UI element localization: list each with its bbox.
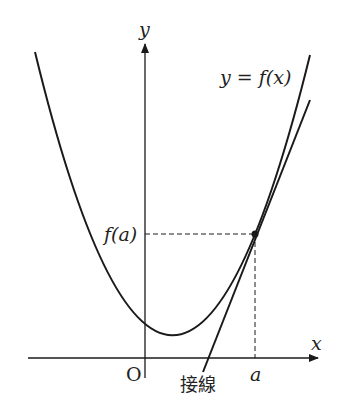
point-y-label: f(a) [104, 225, 137, 244]
tangent-line-diagram: y x O y = f(x) f(a) a 接線 [0, 0, 344, 416]
curve-label: y = f(x) [220, 68, 291, 87]
origin-label: O [126, 365, 142, 384]
parabola-curve [35, 52, 310, 335]
tangent-label: 接線 [180, 376, 216, 394]
x-axis-label: x [311, 334, 322, 353]
diagram-canvas [0, 0, 344, 416]
y-axis-label: y [139, 20, 150, 39]
point-x-label: a [250, 365, 261, 384]
tangent-point [252, 231, 259, 238]
